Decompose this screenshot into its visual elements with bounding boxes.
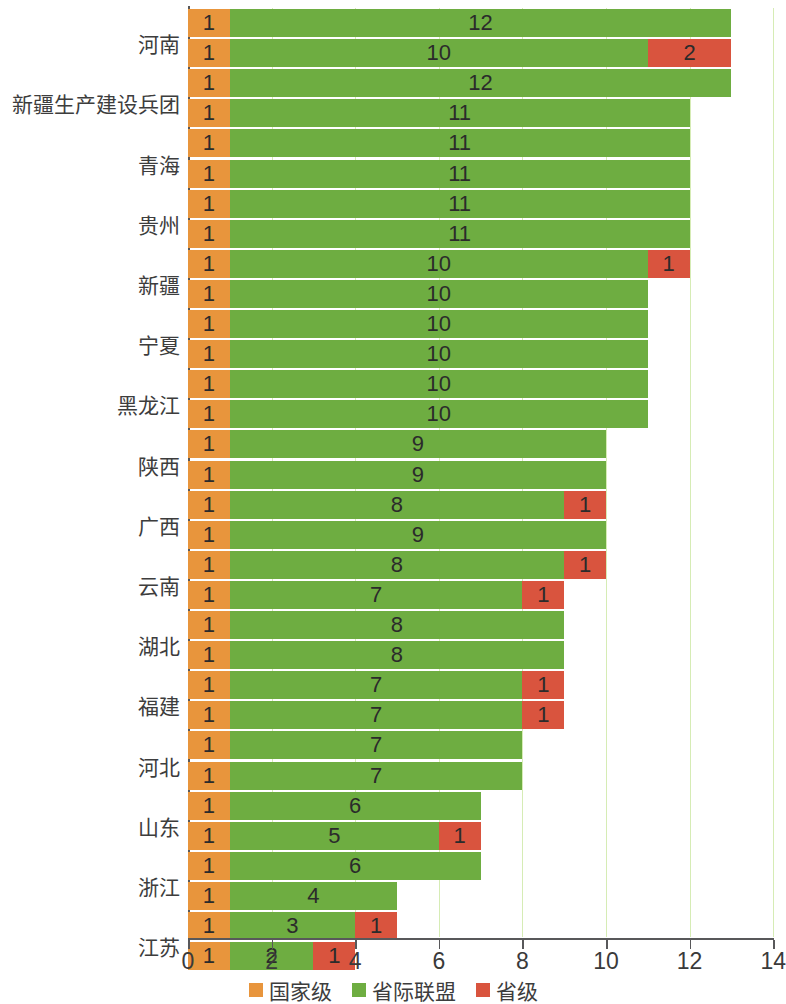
bar-segment-value: 1	[188, 430, 230, 458]
bar-segment-national: 1	[188, 310, 230, 338]
bar-row: 112	[188, 69, 773, 97]
stacked-bar-chart: 河南新疆生产建设兵团青海贵州新疆宁夏黑龙江陕西广西云南湖北福建河北山东浙江江苏 …	[0, 0, 786, 1004]
bar-segment-national: 1	[188, 250, 230, 278]
bar-segment-value: 7	[230, 731, 523, 759]
bar-segment-value: 1	[522, 581, 564, 609]
bar-segment-value: 1	[439, 822, 481, 850]
bar-segment-alliance: 10	[230, 280, 648, 308]
bar-row: 17	[188, 762, 773, 790]
bar-row: 110	[188, 370, 773, 398]
bar-segment-alliance: 7	[230, 701, 523, 729]
bar-row: 19	[188, 461, 773, 489]
bar-segment-national: 1	[188, 581, 230, 609]
bar-row: 110	[188, 340, 773, 368]
bar-segment-alliance: 7	[230, 762, 523, 790]
bar-segment-alliance: 8	[230, 611, 564, 639]
bar-segment-national: 1	[188, 430, 230, 458]
bar-segment-national: 1	[188, 129, 230, 157]
bar-segment-value: 7	[230, 581, 523, 609]
legend-item[interactable]: 省级	[476, 975, 538, 1004]
bar-segment-value: 1	[188, 671, 230, 699]
bar-segment-alliance: 9	[230, 461, 606, 489]
bar-segment-value: 7	[230, 762, 523, 790]
category-label: 山东	[0, 814, 180, 842]
bar-row: 151	[188, 822, 773, 850]
bar-segment-national: 1	[188, 701, 230, 729]
bar-segment-value: 7	[230, 701, 523, 729]
bar-segment-value: 10	[230, 280, 648, 308]
category-label: 宁夏	[0, 332, 180, 360]
bar-segment-value: 1	[188, 641, 230, 669]
category-label: 陕西	[0, 453, 180, 481]
bar-segment-value: 1	[188, 250, 230, 278]
bar-row: 17	[188, 731, 773, 759]
bar-row: 19	[188, 430, 773, 458]
bar-segment-national: 1	[188, 521, 230, 549]
legend-swatch-icon	[476, 983, 490, 997]
bar-segment-national: 1	[188, 160, 230, 188]
bar-segment-national: 1	[188, 792, 230, 820]
bar-segment-value: 6	[230, 792, 481, 820]
category-label: 广西	[0, 513, 180, 541]
bar-segment-provincial: 1	[564, 491, 606, 519]
bar-segment-provincial: 1	[522, 701, 564, 729]
bar-segment-provincial: 1	[355, 912, 397, 940]
category-label: 新疆生产建设兵团	[0, 91, 180, 119]
bar-row: 110	[188, 280, 773, 308]
category-label: 云南	[0, 573, 180, 601]
bar-row: 18	[188, 641, 773, 669]
bar-row: 181	[188, 491, 773, 519]
legend-swatch-icon	[352, 983, 366, 997]
bar-segment-national: 1	[188, 491, 230, 519]
bar-segment-alliance: 7	[230, 671, 523, 699]
bar-row: 111	[188, 129, 773, 157]
bar-segment-national: 1	[188, 882, 230, 910]
bar-segment-value: 9	[230, 461, 606, 489]
bar-segment-value: 1	[188, 521, 230, 549]
bar-segment-national: 1	[188, 912, 230, 940]
bar-segment-value: 1	[188, 99, 230, 127]
category-label: 黑龙江	[0, 392, 180, 420]
bar-segment-value: 1	[188, 9, 230, 37]
bar-segment-provincial: 2	[648, 39, 732, 67]
bar-segment-national: 1	[188, 220, 230, 248]
bar-segment-alliance: 9	[230, 430, 606, 458]
bar-segment-alliance: 7	[230, 581, 523, 609]
x-tick-label: 6	[432, 948, 445, 975]
bar-segment-alliance: 8	[230, 641, 564, 669]
bar-segment-value: 1	[188, 701, 230, 729]
bar-row: 171	[188, 581, 773, 609]
bar-row: 14	[188, 882, 773, 910]
bar-segment-national: 1	[188, 370, 230, 398]
bar-segment-value: 8	[230, 611, 564, 639]
bar-segment-value: 12	[230, 69, 732, 97]
legend-label: 省级	[496, 975, 538, 1004]
bar-segment-alliance: 7	[230, 731, 523, 759]
bar-segment-value: 1	[564, 491, 606, 519]
bar-segment-value: 1	[188, 160, 230, 188]
bar-segment-alliance: 10	[230, 250, 648, 278]
bar-segment-provincial: 1	[564, 551, 606, 579]
bar-segment-value: 1	[188, 731, 230, 759]
bar-segment-alliance: 12	[230, 9, 732, 37]
bar-segment-alliance: 10	[230, 340, 648, 368]
bar-segment-value: 11	[230, 190, 690, 218]
bar-segment-national: 1	[188, 400, 230, 428]
bar-segment-value: 11	[230, 220, 690, 248]
category-label: 湖北	[0, 633, 180, 661]
bar-segment-value: 1	[188, 792, 230, 820]
bar-segment-value: 1	[355, 912, 397, 940]
bar-segment-alliance: 10	[230, 370, 648, 398]
bar-segment-alliance: 8	[230, 491, 564, 519]
legend-item[interactable]: 国家级	[249, 975, 332, 1004]
bar-segment-value: 8	[230, 491, 564, 519]
legend-item[interactable]: 省际联盟	[352, 975, 456, 1004]
x-tick-label: 14	[760, 948, 786, 975]
x-tick-label: 10	[593, 948, 619, 975]
bar-segment-value: 1	[188, 852, 230, 880]
category-label: 青海	[0, 152, 180, 180]
bar-segment-value: 1	[188, 611, 230, 639]
bar-segment-alliance: 8	[230, 551, 564, 579]
bar-segment-value: 1	[188, 310, 230, 338]
bar-segment-national: 1	[188, 280, 230, 308]
